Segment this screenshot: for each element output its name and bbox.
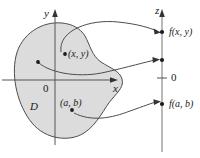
arrow-xy-to-fxy-head <box>154 29 161 35</box>
region-d-shape <box>14 23 122 138</box>
x-axis-label: x <box>113 83 118 94</box>
value-fxy-dot <box>160 30 164 34</box>
value-fab-label: f(a, b) <box>169 99 193 109</box>
point-ab-label: (a, b) <box>60 98 82 108</box>
point-xy-dot <box>63 52 67 56</box>
diagram-canvas <box>0 0 200 158</box>
z-axis-zero-label: 0 <box>171 72 177 83</box>
y-axis-label: y <box>44 8 49 19</box>
point-xy-label: (x, y) <box>68 49 89 59</box>
value-unlabeled-dot <box>160 58 164 62</box>
origin-label: 0 <box>43 83 49 94</box>
point-ab-dot <box>70 108 74 112</box>
value-fab-dot <box>160 102 164 106</box>
function-two-variables-diagram: y x 0 D (x, y) (a, b) z 0 f(x, y) f(a, b… <box>0 0 200 158</box>
arrow-mid-head <box>152 57 160 63</box>
value-fxy-label: f(x, y) <box>169 27 192 37</box>
region-d-label: D <box>30 101 38 112</box>
y-axis-arrowhead <box>52 9 58 17</box>
z-axis-arrowhead <box>159 9 165 17</box>
z-axis-label: z <box>155 5 159 16</box>
point-unlabeled-dot <box>36 60 40 64</box>
arrow-ab-to-fab-head <box>153 99 161 105</box>
